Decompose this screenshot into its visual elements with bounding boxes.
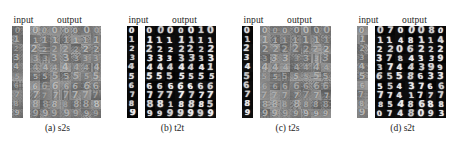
digit-glyph: 4 [359,63,366,72]
output-digit-cell: 0 [206,26,216,35]
digit-glyph: 5 [387,100,393,108]
digit-glyph: 0 [313,26,320,35]
digit-glyph: 4 [437,35,445,44]
output-digit-cell: 5 [30,72,40,81]
output-digit-cell: 6 [196,81,206,90]
digit-glyph: 4 [397,82,403,90]
digit-glyph: 6 [72,82,79,90]
output-digit-cell: 5 [385,81,395,90]
output-digit-cell: 4 [395,63,405,72]
digit-glyph: 2 [145,44,152,53]
digit-glyph: 9 [428,109,434,117]
output-digit-cell: 5 [311,72,321,81]
output-digit-cell: 8 [71,100,81,109]
output-digit-cell: 4 [30,63,40,72]
digit-glyph: 3 [177,54,184,63]
output-digit-cell: 0 [260,26,270,35]
digit-glyph: 7 [260,90,267,99]
output-digit-cell: 2 [30,44,40,53]
digit-glyph: 9 [428,63,435,72]
digit-glyph: 4 [324,64,330,71]
output-digit-cell: 6 [155,81,165,90]
digit-glyph: 4 [42,63,48,71]
output-digit-cell: 2 [321,44,331,53]
panel-caption: (a) s2s [45,122,70,134]
output-digit-cell: 5 [165,72,175,81]
digit-glyph: 1 [261,35,268,44]
input-digit-cell: 8 [357,100,368,109]
output-digit-cell: 8 [395,54,405,63]
digit-glyph: 0 [359,26,365,34]
output-digit-cell: 6 [301,81,311,90]
digit-glyph: 1 [208,36,214,43]
output-digit-cell: 4 [40,63,50,72]
output-digit-cell: 7 [290,90,300,99]
output-digit-cell: 3 [375,63,385,72]
header-input-label: input [240,15,268,26]
output-digit-cell: 4 [311,63,321,72]
output-digit-cell: 8 [155,100,165,109]
digit-glyph: 4 [408,54,414,62]
panel-s2s: inputoutput01234567890000000111111122222… [0,0,115,141]
digit-glyph: 7 [82,90,89,99]
output-digit-cell: 9 [436,54,446,63]
digit-glyph: 1 [313,35,320,44]
digit-glyph: 4 [199,63,205,71]
header-input-label: input [10,15,38,26]
output-digit-cell: 9 [196,109,206,118]
output-digit-cell: 4 [175,63,185,72]
output-digit-cell: 8 [321,100,331,109]
digit-glyph: 0 [377,26,384,35]
digit-glyph: 7 [62,90,69,99]
output-digit-cell: 6 [81,81,91,90]
output-digit-cell: 1 [280,35,290,44]
digit-glyph: 3 [376,63,382,71]
output-digit-cell: 1 [196,26,206,35]
digit-glyph: 3 [32,54,39,62]
output-digit-cell: 7 [40,90,50,99]
output-digit-cell: 6 [91,81,101,90]
output-digit-cell: 2 [60,44,70,53]
digit-glyph: 7 [93,91,99,100]
digit-glyph: 4 [407,63,414,72]
digit-glyph: 0 [188,26,195,35]
output-digit-cell: 9 [426,109,436,118]
digit-glyph: 0 [396,44,403,53]
digit-glyph: 9 [176,109,183,118]
digit-glyph: 0 [83,26,90,35]
output-digit-cell: 1 [311,35,321,44]
output-digit-cell: 9 [321,109,331,118]
digit-glyph: 8 [282,100,288,108]
output-digit-cell: 3 [375,54,385,63]
output-digit-cell: 4 [165,63,175,72]
input-digit-cell: 6 [127,81,138,90]
digit-glyph: 8 [198,100,204,108]
output-digit-cell: 9 [40,109,50,118]
output-digit-cell: 4 [290,63,300,72]
output-digit-cell: 1 [155,35,165,44]
output-digit-cell: 7 [270,90,280,99]
digit-glyph: 0 [438,27,444,34]
digit-glyph: 2 [376,45,382,53]
output-digit-cell: 6 [405,44,415,53]
digit-glyph: 5 [292,73,298,81]
output-digit-cell: 0 [321,26,331,35]
digit-glyph: 1 [73,36,78,44]
digit-glyph: 3 [437,72,444,81]
output-digit-cell: 5 [175,72,185,81]
digit-glyph: 0 [418,26,425,35]
output-digit-cell: 5 [270,72,280,81]
output-digit-cell: 1 [186,35,196,44]
digit-glyph: 3 [262,54,268,62]
input-digit-cell: 2 [127,44,138,53]
digit-glyph: 1 [207,63,214,72]
digit-glyph: 9 [244,110,250,118]
digit-glyph: 7 [198,91,205,100]
output-digit-cell: 2 [416,44,426,53]
digit-glyph: 1 [32,36,38,43]
digit-glyph: 8 [51,100,58,108]
digit-glyph: 1 [82,36,88,44]
output-digit-cell: 5 [186,72,196,81]
output-digit-cell: 4 [405,63,415,72]
digit-glyph: 4 [397,109,403,118]
